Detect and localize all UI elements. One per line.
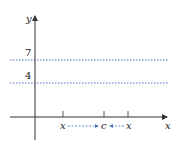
limit-diagram: y 7 4 x c x x [0, 0, 182, 145]
point-label-x-left: x [60, 120, 66, 131]
x-axis-label: x [165, 120, 171, 131]
point-label-c: c [101, 120, 107, 131]
line-label-7: 7 [25, 47, 31, 58]
point-label-x-right: x [126, 120, 132, 131]
y-axis-label: y [25, 13, 32, 24]
line-label-4: 4 [25, 70, 31, 81]
